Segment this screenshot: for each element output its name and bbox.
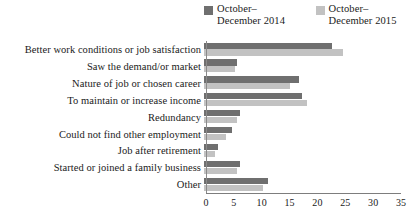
category-label: Saw the demand/or market — [0, 61, 204, 72]
category-label: Job after retirement — [0, 145, 204, 156]
category-label: Nature of job or chosen career — [0, 78, 204, 89]
zero-axis-line — [206, 41, 207, 193]
bar-2014 — [204, 59, 237, 65]
bar-chart: October–December 2014 October–December 2… — [0, 0, 410, 223]
bar-2015 — [204, 185, 263, 191]
x-tick-label: 25 — [340, 197, 350, 208]
bar-2015 — [204, 117, 237, 123]
x-tick-label: 15 — [284, 197, 294, 208]
legend-swatch-2014 — [204, 6, 213, 15]
x-tick-label: 35 — [396, 197, 406, 208]
bar-row: Started or joined a family business — [0, 159, 410, 176]
bar-2015 — [204, 168, 237, 174]
bar-row: Other — [0, 176, 410, 193]
bar-group — [204, 75, 410, 92]
bar-row: Redundancy — [0, 109, 410, 126]
bar-2014 — [204, 110, 240, 116]
category-label: Redundancy — [0, 112, 204, 123]
bar-2015 — [204, 66, 235, 72]
legend-item-2014: October–December 2014 — [204, 3, 299, 26]
bar-2015 — [204, 134, 226, 140]
bar-2015 — [204, 83, 290, 89]
legend-item-2015: October–December 2015 — [316, 3, 410, 26]
x-tick-label: 5 — [231, 197, 236, 208]
bar-group — [204, 109, 410, 126]
bar-group — [204, 41, 410, 58]
bar-2014 — [204, 76, 299, 82]
bar-group — [204, 126, 410, 143]
bar-2014 — [204, 178, 268, 184]
bar-2014 — [204, 93, 302, 99]
category-label: To maintain or increase income — [0, 95, 204, 106]
bar-group — [204, 92, 410, 109]
bar-rows: Better work conditions or job satisfacti… — [0, 41, 410, 193]
x-tick-label: 20 — [312, 197, 322, 208]
category-label: Better work conditions or job satisfacti… — [0, 44, 204, 55]
bar-row: Job after retirement — [0, 142, 410, 159]
x-axis-line — [206, 193, 401, 194]
bar-2015 — [204, 100, 307, 106]
x-axis-ticks: 05101520253035 — [0, 197, 410, 213]
bar-row: Nature of job or chosen career — [0, 75, 410, 92]
bar-group — [204, 176, 410, 193]
bar-2014 — [204, 161, 240, 167]
legend-swatch-2015 — [316, 6, 325, 15]
bar-row: Better work conditions or job satisfacti… — [0, 41, 410, 58]
bar-row: To maintain or increase income — [0, 92, 410, 109]
bar-group — [204, 142, 410, 159]
legend-label-2015: October–December 2015 — [329, 3, 410, 26]
bar-2014 — [204, 43, 332, 49]
x-tick-label: 30 — [368, 197, 378, 208]
legend-label-2014: October–December 2014 — [217, 3, 299, 26]
bar-group — [204, 159, 410, 176]
bar-2015 — [204, 49, 343, 55]
bar-row: Saw the demand/or market — [0, 58, 410, 75]
x-tick-label: 0 — [203, 197, 208, 208]
category-label: Could not find other employment — [0, 129, 204, 140]
bar-2014 — [204, 127, 232, 133]
bar-group — [204, 58, 410, 75]
x-tick-label: 10 — [257, 197, 267, 208]
category-label: Other — [0, 179, 204, 190]
bar-row: Could not find other employment — [0, 126, 410, 143]
category-label: Started or joined a family business — [0, 162, 204, 173]
chart-legend: October–December 2014 October–December 2… — [204, 3, 410, 26]
plot-area: Better work conditions or job satisfacti… — [0, 41, 410, 196]
